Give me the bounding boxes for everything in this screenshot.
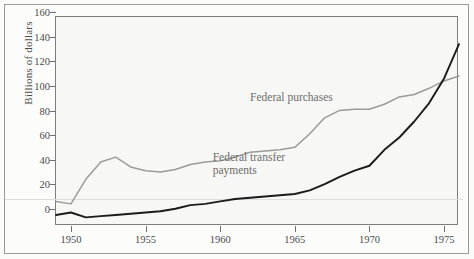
series-annotation-federal-purchases: Federal purchases [250, 91, 333, 104]
x-tick-label: 1965 [275, 234, 315, 245]
x-axis-ticks: 195019551960196519701975 [56, 226, 459, 254]
y-tick-mark [50, 12, 56, 13]
y-axis-ticks: 020406080100120140160 [18, 0, 50, 209]
y-tick-label: 40 [24, 154, 50, 165]
plot-panel: Federal purchases Federal transfer payme… [55, 16, 458, 225]
y-tick-label: 160 [24, 7, 50, 18]
line-series [56, 44, 459, 217]
series-lines [56, 17, 459, 226]
x-tick-label: 1960 [200, 234, 240, 245]
figure-container: Billions of dollars 02040608010012014016… [0, 0, 474, 259]
x-tick-mark [444, 226, 445, 232]
x-tick-mark [369, 226, 370, 232]
plot-area: Federal purchases Federal transfer payme… [56, 17, 457, 224]
y-tick-label: 20 [24, 179, 50, 190]
y-tick-label: 100 [24, 81, 50, 92]
series-annotation-federal-transfer-payments: Federal transfer payments [213, 151, 285, 177]
x-tick-mark [146, 226, 147, 232]
x-tick-label: 1950 [51, 234, 91, 245]
x-tick-label: 1970 [349, 234, 389, 245]
y-tick-label: 0 [24, 204, 50, 215]
x-tick-label: 1975 [424, 234, 464, 245]
x-tick-mark [295, 226, 296, 232]
x-tick-mark [220, 226, 221, 232]
y-tick-label: 60 [24, 130, 50, 141]
y-tick-label: 140 [24, 31, 50, 42]
x-tick-label: 1955 [126, 234, 166, 245]
y-tick-label: 120 [24, 56, 50, 67]
x-tick-mark [71, 226, 72, 232]
y-tick-label: 80 [24, 105, 50, 116]
